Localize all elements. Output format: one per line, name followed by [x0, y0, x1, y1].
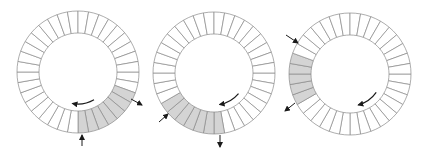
- rotation-direction-arrow-icon: [220, 94, 239, 105]
- ring-buffer-diagram: [0, 0, 425, 151]
- diagram-canvas: [0, 0, 425, 151]
- rotation-direction-arrow-icon: [72, 100, 94, 104]
- write-pointer-arrow-icon: [159, 114, 168, 122]
- read-pointer-arrow-icon: [285, 103, 295, 111]
- ring-2: [153, 12, 275, 147]
- write-pointer-arrow-icon: [286, 35, 298, 43]
- read-pointer-arrow-icon: [131, 99, 142, 105]
- ring-1: [17, 11, 142, 146]
- ring-3: [285, 13, 411, 135]
- rotation-direction-arrow-icon: [358, 92, 376, 105]
